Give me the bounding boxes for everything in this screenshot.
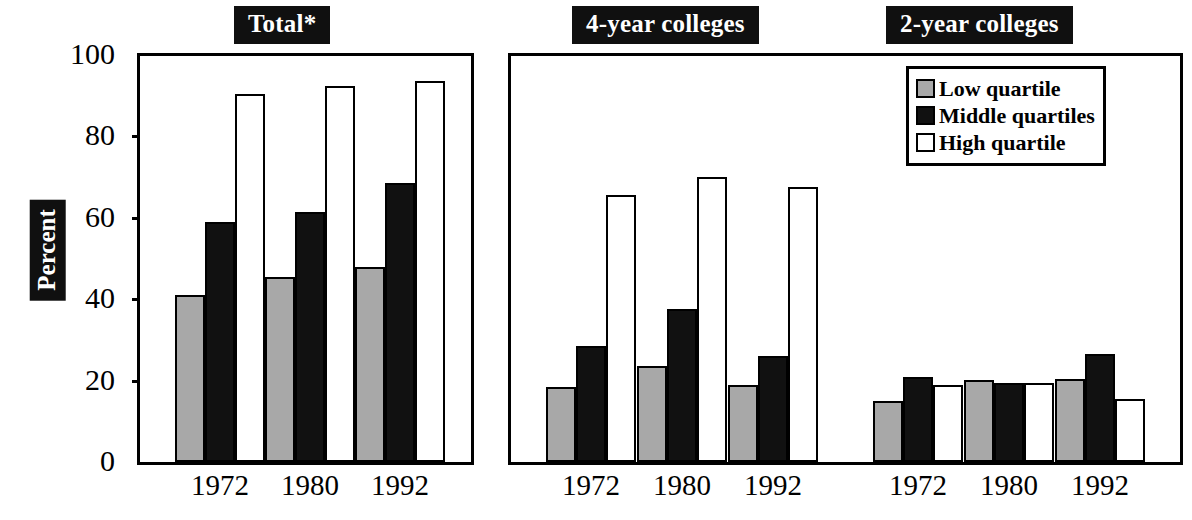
bar-middle-1992 <box>385 183 415 462</box>
legend-swatch-low-icon <box>916 79 935 98</box>
bar-middle-1980 <box>667 309 697 462</box>
bar-high-1972 <box>933 385 963 462</box>
y-tick-label: 100 <box>43 39 115 69</box>
bar-low-1980 <box>964 380 994 462</box>
bar-high-1980 <box>1024 383 1054 462</box>
bar-low-1972 <box>175 295 205 462</box>
bar-middle-1980 <box>295 212 325 462</box>
bar-low-1992 <box>1055 379 1085 462</box>
legend-label: Middle quartiles <box>939 105 1095 127</box>
bar-high-1972 <box>235 94 265 462</box>
bar-middle-1980 <box>994 383 1024 462</box>
y-tick-label: 0 <box>43 446 115 476</box>
legend-item-middle: Middle quartiles <box>916 102 1095 129</box>
legend-label: High quartile <box>939 132 1066 154</box>
legend: Low quartileMiddle quartilesHigh quartil… <box>906 66 1106 166</box>
bar-low-1980 <box>265 277 295 462</box>
bar-high-1980 <box>325 86 355 462</box>
panel-title-2-year-colleges: 2-year colleges <box>886 6 1073 44</box>
legend-swatch-high-icon <box>916 133 935 152</box>
x-tick-label: 1992 <box>345 470 455 500</box>
chart-figure: Total* 4-year colleges 2-year colleges P… <box>0 0 1192 520</box>
bar-high-1992 <box>1115 399 1145 462</box>
bar-middle-1992 <box>758 356 788 462</box>
bar-high-1992 <box>415 81 445 462</box>
x-tick-label: 1992 <box>718 470 828 500</box>
bar-low-1980 <box>637 366 667 462</box>
bar-middle-1972 <box>576 346 606 462</box>
bar-middle-1972 <box>205 222 235 462</box>
bar-high-1972 <box>606 195 636 462</box>
y-tick-label: 20 <box>43 365 115 395</box>
panel-title-4-year-colleges: 4-year colleges <box>572 6 759 44</box>
y-tick-label: 80 <box>43 120 115 150</box>
y-tick-label: 40 <box>43 283 115 313</box>
panel-title-total: Total* <box>234 6 330 44</box>
bar-low-1992 <box>355 267 385 462</box>
bar-low-1972 <box>873 401 903 462</box>
y-tick-label: 60 <box>43 202 115 232</box>
bar-middle-1992 <box>1085 354 1115 462</box>
bar-low-1972 <box>546 387 576 462</box>
legend-item-low: Low quartile <box>916 75 1095 102</box>
legend-swatch-middle-icon <box>916 106 935 125</box>
bar-high-1992 <box>788 187 818 462</box>
bar-low-1992 <box>728 385 758 462</box>
legend-item-high: High quartile <box>916 129 1095 156</box>
bar-middle-1972 <box>903 377 933 462</box>
legend-label: Low quartile <box>939 78 1061 100</box>
x-tick-label: 1992 <box>1045 470 1155 500</box>
bar-high-1980 <box>697 177 727 462</box>
